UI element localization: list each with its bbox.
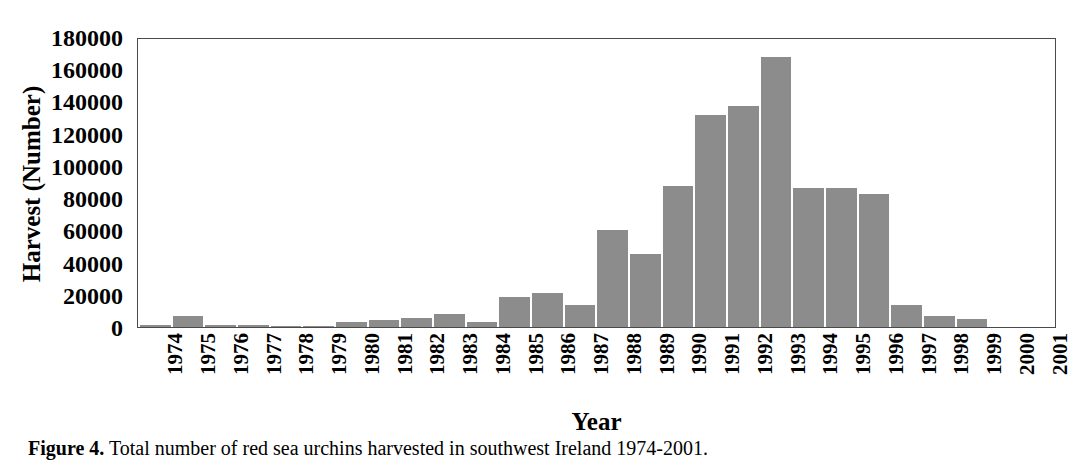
- x-tick-cell: 1997: [891, 331, 924, 409]
- x-tick-cell: 1978: [269, 331, 302, 409]
- bar-1988[interactable]: [596, 229, 629, 327]
- x-tick-cell: 1985: [498, 331, 531, 409]
- bar-2001[interactable]: [1021, 326, 1054, 327]
- bar-cell: [368, 39, 401, 327]
- x-tick-cell: 1982: [400, 331, 433, 409]
- bar-1997[interactable]: [890, 304, 923, 327]
- y-tick-label: 60000: [63, 219, 123, 243]
- x-axis-tick-labels: 1974197519761977197819791980198119821983…: [137, 331, 1056, 409]
- bar-1994[interactable]: [792, 187, 825, 327]
- bar-cell: [956, 39, 989, 327]
- y-tick-label: 20000: [63, 284, 123, 308]
- bar-1983[interactable]: [433, 313, 466, 327]
- bar-cell: [694, 39, 727, 327]
- bar-cell: [270, 39, 303, 327]
- figure-caption: Figure 4. Total number of red sea urchin…: [28, 437, 1068, 460]
- y-tick-label: 140000: [51, 90, 123, 114]
- x-tick-cell: 1994: [793, 331, 826, 409]
- bar-cell: [139, 39, 172, 327]
- x-tick-cell: 1993: [760, 331, 793, 409]
- caption-text: Total number of red sea urchins harveste…: [109, 437, 708, 459]
- x-tick-cell: 1979: [302, 331, 335, 409]
- bar-cell: [564, 39, 597, 327]
- bar-1984[interactable]: [466, 321, 499, 327]
- x-tick-cell: 1975: [171, 331, 204, 409]
- x-tick-cell: 1977: [236, 331, 269, 409]
- bar-cell: [1021, 39, 1054, 327]
- bar-1999[interactable]: [956, 318, 989, 327]
- x-tick-cell: 1995: [826, 331, 859, 409]
- bar-1978[interactable]: [270, 325, 303, 327]
- bar-cell: [792, 39, 825, 327]
- plot-area: [137, 38, 1056, 328]
- y-tick-label: 120000: [51, 123, 123, 147]
- y-tick-label: 160000: [51, 58, 123, 82]
- bar-1982[interactable]: [400, 317, 433, 327]
- bar-1977[interactable]: [237, 324, 270, 327]
- x-tick-cell: 2001: [1022, 331, 1055, 409]
- bar-cell: [858, 39, 891, 327]
- bar-1987[interactable]: [564, 304, 597, 327]
- x-tick-cell: 1996: [859, 331, 892, 409]
- bar-cell: [400, 39, 433, 327]
- x-tick-cell: 1981: [367, 331, 400, 409]
- bar-1991[interactable]: [694, 114, 727, 327]
- bar-cell: [466, 39, 499, 327]
- y-tick-label: 0: [111, 316, 123, 340]
- caption-label: Figure 4.: [28, 437, 104, 459]
- x-tick-cell: 1998: [924, 331, 957, 409]
- bar-cell: [237, 39, 270, 327]
- bar-cell: [498, 39, 531, 327]
- bar-1981[interactable]: [368, 319, 401, 327]
- y-axis-tick-labels: 0200004000060000800001000001200001400001…: [0, 38, 129, 328]
- bar-1995[interactable]: [825, 187, 858, 327]
- bar-series: [138, 39, 1055, 327]
- x-tick-cell: 1974: [138, 331, 171, 409]
- x-tick-cell: 1983: [433, 331, 466, 409]
- x-tick-cell: 1991: [695, 331, 728, 409]
- bar-cell: [662, 39, 695, 327]
- x-tick-cell: 1976: [204, 331, 237, 409]
- bar-1996[interactable]: [858, 193, 891, 327]
- bar-1989[interactable]: [629, 253, 662, 327]
- x-tick-cell: 1989: [629, 331, 662, 409]
- x-tick-cell: 2000: [990, 331, 1023, 409]
- bar-1974[interactable]: [139, 324, 172, 327]
- x-tick-cell: 1984: [466, 331, 499, 409]
- bar-cell: [727, 39, 760, 327]
- bar-1998[interactable]: [923, 315, 956, 327]
- bar-cell: [760, 39, 793, 327]
- bar-1976[interactable]: [204, 324, 237, 327]
- bar-cell: [302, 39, 335, 327]
- x-tick-cell: 1986: [531, 331, 564, 409]
- bar-cell: [433, 39, 466, 327]
- bar-cell: [629, 39, 662, 327]
- bar-cell: [825, 39, 858, 327]
- bar-1993[interactable]: [760, 56, 793, 327]
- x-tick-cell: 1999: [957, 331, 990, 409]
- bar-cell: [204, 39, 237, 327]
- bar-1980[interactable]: [335, 321, 368, 327]
- bar-1990[interactable]: [662, 185, 695, 327]
- bar-cell: [988, 39, 1021, 327]
- bar-1979[interactable]: [302, 325, 335, 327]
- y-tick-label: 100000: [51, 155, 123, 179]
- bar-1992[interactable]: [727, 105, 760, 327]
- x-tick-cell: 1988: [597, 331, 630, 409]
- x-tick-cell: 1990: [662, 331, 695, 409]
- x-tick-label: 2001: [1049, 333, 1070, 375]
- bar-cell: [596, 39, 629, 327]
- bar-1986[interactable]: [531, 292, 564, 327]
- y-tick-label: 180000: [51, 26, 123, 50]
- bar-2000[interactable]: [988, 326, 1021, 327]
- x-tick-cell: 1987: [564, 331, 597, 409]
- x-tick-cell: 1980: [335, 331, 368, 409]
- bar-1975[interactable]: [172, 315, 205, 327]
- bar-1985[interactable]: [498, 296, 531, 327]
- bar-cell: [890, 39, 923, 327]
- bar-cell: [923, 39, 956, 327]
- y-tick-label: 40000: [63, 252, 123, 276]
- bar-cell: [335, 39, 368, 327]
- y-tick-label: 80000: [63, 187, 123, 211]
